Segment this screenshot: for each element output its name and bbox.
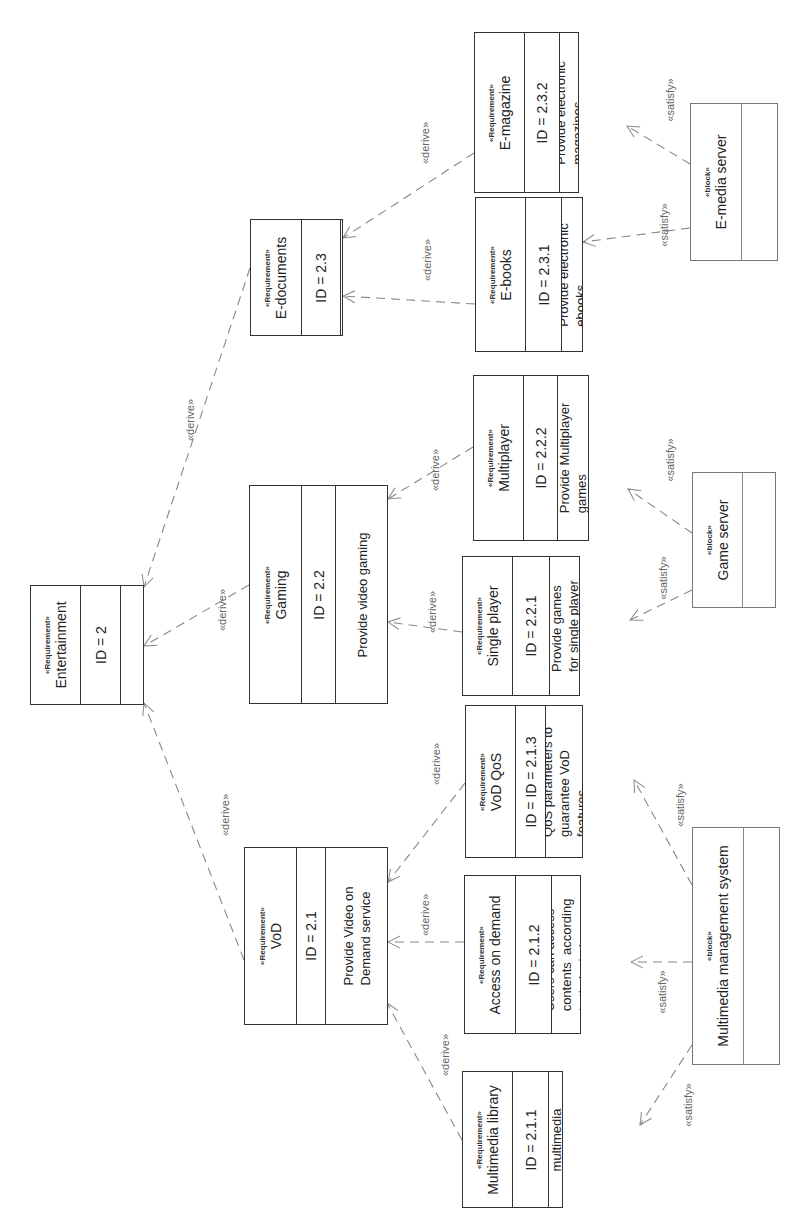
requirement-id: ID = 2 — [93, 626, 109, 664]
requirement-id: ID = 2.3 — [313, 253, 329, 302]
requirement-entertainment[interactable]: «Requirement»Entertainment ID = 2 — [30, 585, 144, 705]
requirement-text: Provide Multiplayer games — [558, 403, 588, 514]
satisfy-emedia-emagazine — [627, 126, 690, 164]
stereotype-label: «Requirement» — [257, 907, 267, 965]
requirement-name: Entertainment — [52, 601, 69, 688]
block-name: Game server — [714, 500, 731, 581]
derive-emagazine-edocuments — [343, 153, 474, 238]
derive-ebooks-edocuments — [343, 296, 475, 304]
requirement-id: ID = 2.1 — [303, 911, 319, 960]
requirement-text: QoS parameters to guarantee VoD features — [546, 727, 582, 837]
derive-label: «derive» — [430, 743, 442, 785]
stereotype-label: «Requirement» — [487, 246, 497, 304]
stereotype-label: «Requirement» — [474, 1085, 484, 1195]
stereotype-label: «Requirement» — [42, 601, 52, 688]
requirement-text: Provide electronic magazines — [560, 61, 578, 164]
block-name: Multimedia management system — [715, 845, 732, 1047]
requirement-text: Provide video gaming — [353, 532, 370, 657]
stereotype-label: «Requirement» — [477, 895, 487, 1014]
stereotype-label: «block» — [704, 500, 714, 581]
block-emedia-server[interactable]: «block»E-media server — [690, 103, 778, 261]
satisfy-label: «satisfy» — [682, 1083, 694, 1126]
stereotype-label: «Requirement» — [485, 424, 495, 492]
block-multimedia-management-system[interactable]: «block»Multimedia management system — [692, 827, 780, 1065]
derive-gaming-entertainment — [144, 585, 249, 646]
requirement-id: ID = 2.2.2 — [533, 427, 549, 488]
requirement-emagazine[interactable]: «Requirement»E-magazine ID = 2.3.2 Provi… — [474, 32, 579, 193]
requirement-gaming[interactable]: «Requirement»Gaming ID = 2.2 Provide vid… — [249, 485, 388, 704]
stereotype-label: «block» — [703, 135, 713, 230]
derive-label: «derive» — [421, 239, 433, 281]
derive-edocuments-entertainment — [144, 268, 250, 587]
requirement-name: VoD — [267, 907, 284, 965]
derive-vodqos-vod — [388, 783, 465, 882]
stereotype-label: «Requirement» — [474, 586, 484, 667]
requirement-edocuments[interactable]: «Requirement»E-documents ID = 2.3 — [250, 219, 343, 336]
requirement-text: Provide games for single player — [550, 580, 579, 672]
requirement-id: ID = 2.1.2 — [526, 924, 542, 985]
satisfy-label: «satisfy» — [674, 783, 686, 826]
requirement-access-on-demand[interactable]: «Requirement»Access on demand ID = 2.1.2… — [464, 875, 581, 1034]
derive-label: «derive» — [426, 591, 438, 633]
stereotype-label: «Requirement» — [486, 75, 496, 150]
satisfy-label: «satisfy» — [657, 556, 669, 599]
requirement-name: E-books — [497, 246, 514, 304]
requirement-id: ID = 2.3.2 — [534, 82, 550, 143]
stereotype-label: «Requirement» — [477, 752, 487, 810]
requirement-name: Gaming — [272, 566, 289, 624]
satisfy-label: «satisfy» — [664, 438, 676, 481]
requirement-name: Single player — [484, 586, 501, 667]
derive-label: «derive» — [419, 122, 431, 164]
requirement-id: ID = 2.1.1 — [523, 1109, 539, 1170]
requirement-single-player[interactable]: «Requirement»Single player ID = 2.2.1 Pr… — [462, 556, 580, 696]
derive-label: «derive» — [184, 399, 196, 441]
requirement-vod-qos[interactable]: «Requirement»VoD QoS ID = ID = 2.1.3 QoS… — [465, 705, 583, 858]
requirement-name: E-magazine — [496, 75, 513, 150]
derive-label: «derive» — [429, 449, 441, 491]
requirement-name: Multiplayer — [495, 424, 512, 492]
requirement-text: Provide a multimedia library — [549, 1108, 562, 1171]
block-name: E-media server — [713, 135, 730, 230]
derive-label: «derive» — [216, 589, 228, 631]
requirement-multiplayer[interactable]: «Requirement»Multiplayer ID = 2.2.2 Prov… — [473, 375, 589, 541]
block-game-server[interactable]: «block»Game server — [692, 472, 776, 608]
requirement-name: E-documents — [273, 236, 290, 318]
satisfy-emedia-ebooks — [583, 228, 690, 242]
stereotype-label: «Requirement» — [263, 236, 273, 318]
requirement-name: VoD QoS — [487, 752, 504, 810]
stereotype-label: «Requirement» — [262, 566, 272, 624]
requirement-name: Access on demand — [487, 895, 504, 1014]
requirement-multimedia-library[interactable]: «Requirement»Multimedia library ID = 2.1… — [462, 1071, 563, 1208]
derive-label: «derive» — [219, 794, 231, 836]
derive-label: «derive» — [419, 894, 431, 936]
requirement-id: ID = 2.3.1 — [536, 244, 552, 305]
requirement-text: Provide Video on Demand service — [340, 887, 374, 986]
requirement-text: Provide electronic ebooks — [562, 223, 582, 326]
derive-single-gaming — [388, 622, 462, 632]
satisfy-label: «satisfy» — [658, 203, 670, 246]
satisfy-label: «satisfy» — [664, 78, 676, 121]
satisfy-gameserver-multi — [628, 489, 692, 533]
requirement-id: ID = 2.2 — [311, 570, 327, 619]
requirement-ebooks[interactable]: «Requirement»E-books ID = 2.3.1 Provide … — [475, 197, 583, 352]
requirement-id: ID = 2.2.1 — [523, 595, 539, 656]
requirement-text: Users can access contents according to t… — [552, 898, 580, 1011]
stereotype-label: «block» — [705, 845, 715, 1047]
satisfy-label: «satisfy» — [656, 970, 668, 1013]
requirement-id: ID = ID = 2.1.3 — [523, 736, 539, 827]
requirement-name: Multimedia library — [484, 1085, 501, 1195]
requirement-vod[interactable]: «Requirement»VoD ID = 2.1 Provide Video … — [244, 847, 388, 1025]
derive-label: «derive» — [439, 1034, 451, 1076]
